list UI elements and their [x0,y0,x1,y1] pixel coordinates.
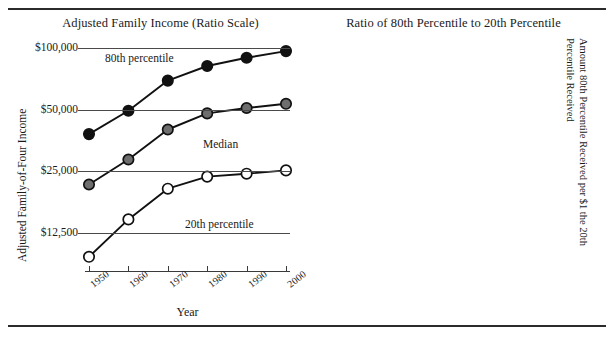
left-chart-panel: Adjusted Family Income (Ratio Scale) Adj… [0,0,307,337]
gridline [85,48,290,49]
x-axis-tick [168,266,169,272]
series-line [89,170,286,256]
data-point-marker [123,214,133,224]
data-point-marker [123,154,133,164]
gridline [85,233,290,234]
series-annotation-label: Median [203,138,238,150]
x-axis-tick [89,266,90,272]
y-tick-mark [78,171,85,172]
left-chart-title: Adjusted Family Income (Ratio Scale) [0,16,307,31]
data-point-marker [202,171,212,181]
data-point-marker [202,61,212,71]
y-tick-mark [78,48,85,49]
y-axis-tick-label: $25,000 [41,165,78,176]
x-axis-tick [128,266,129,272]
x-axis-tick [286,266,287,272]
y-axis-tick-label: $12,500 [41,227,78,238]
y-axis-tick-label: $50,000 [41,104,78,115]
y-axis-tick-label: $100,000 [35,42,78,53]
left-y-axis-title: Adjusted Family-of-Four Income [16,109,28,262]
series-annotation-label: 80th percentile [105,52,174,64]
data-point-marker [163,124,173,134]
gridline [85,171,290,172]
data-point-marker [84,252,94,262]
y-tick-mark [78,110,85,111]
data-point-marker [84,179,94,189]
data-point-marker [163,75,173,85]
left-plot-area: $100,000$50,000$25,000$12,50019501960197… [85,40,290,272]
data-point-marker [241,103,251,113]
data-point-marker [241,169,251,179]
left-x-axis-title: Year [85,305,290,320]
x-axis-tick [247,266,248,272]
data-point-marker [84,129,94,139]
right-y-axis-title: Amount 80th Percentile Received per $1 t… [564,38,589,288]
data-point-marker [163,184,173,194]
left-series-graphics [85,40,290,272]
data-point-marker [241,53,251,63]
gridline [85,110,290,111]
figure-container: Adjusted Family Income (Ratio Scale) Adj… [0,0,614,337]
right-chart-title: Ratio of 80th Percentile to 20th Percent… [307,16,614,31]
series-annotation-label: 20th percentile [185,218,254,230]
y-tick-mark [78,233,85,234]
data-point-marker [281,99,291,109]
x-axis-tick [207,266,208,272]
